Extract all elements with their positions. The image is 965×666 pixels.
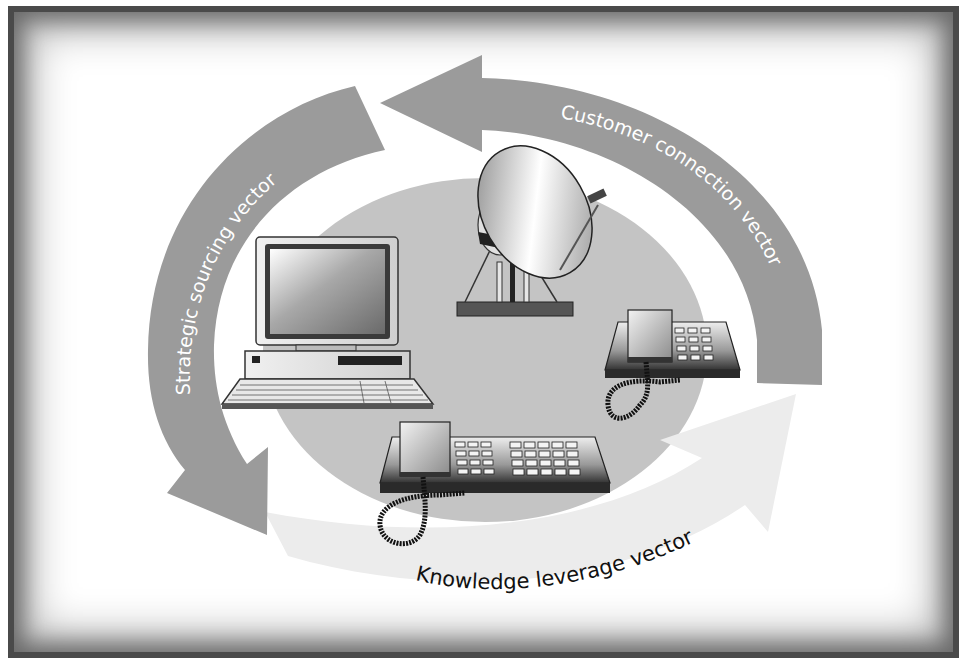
cycle-diagram: Customer connection vector Strategic sou…	[0, 0, 965, 666]
